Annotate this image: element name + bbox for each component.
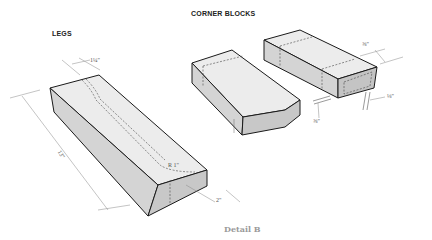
dim-leg-width: 2" (216, 197, 222, 203)
dim-block-thickness: ⅝" (362, 41, 370, 47)
dim-leg-length: 13" (57, 149, 67, 160)
dim-block-recess: ⅛" (387, 93, 395, 99)
dim-block-offset: ⅝" (313, 118, 321, 124)
dim-leg-thickness: 1¼" (90, 57, 101, 63)
dim-leg-radius: R 1" (168, 162, 180, 168)
drawing: 1¼" 13" R 1" 2" ⅝" ⅛" ⅝" (0, 0, 432, 240)
